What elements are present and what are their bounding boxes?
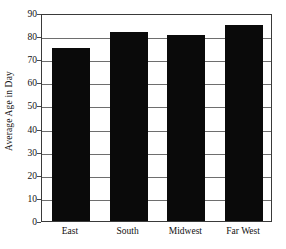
- y-axis-tick-mark: [37, 83, 41, 84]
- x-axis-tick-labels: EastSouthMidwestFar West: [41, 225, 272, 241]
- x-axis-tick-label: Far West: [214, 225, 272, 237]
- y-axis-tick-mark: [37, 37, 41, 38]
- y-axis-tick-label: 40: [17, 125, 37, 135]
- plot-area: [41, 14, 272, 222]
- bars-group: [42, 15, 271, 221]
- y-axis-title-text: Average Age in Day: [4, 71, 14, 151]
- y-axis-tick-label: 80: [17, 32, 37, 42]
- y-axis-tick-label: 20: [17, 171, 37, 181]
- y-axis-tick-mark: [37, 199, 41, 200]
- y-axis-tick-mark: [37, 222, 41, 223]
- bar-chart: Average Age in Day 0102030405060708090 E…: [0, 0, 286, 249]
- y-axis-tick-label: 10: [17, 194, 37, 204]
- x-axis-tick-label: Midwest: [157, 225, 215, 237]
- y-axis-tick-mark: [37, 60, 41, 61]
- x-axis-tick-label: South: [99, 225, 157, 237]
- y-axis-tick-label: 60: [17, 78, 37, 88]
- y-axis-tick-labels: 0102030405060708090: [17, 0, 37, 232]
- bar: [52, 48, 90, 221]
- y-axis-tick-label: 30: [17, 148, 37, 158]
- y-axis-tick-mark: [37, 14, 41, 15]
- y-axis-tick-mark: [37, 176, 41, 177]
- bar: [167, 35, 205, 221]
- y-axis-tick-mark: [37, 130, 41, 131]
- y-axis-title: Average Age in Day: [0, 0, 18, 222]
- y-axis-tick-label: 50: [17, 101, 37, 111]
- x-axis-tick-label: East: [41, 225, 99, 237]
- y-axis-tick-label: 0: [17, 217, 37, 227]
- y-axis-tick-mark: [37, 106, 41, 107]
- y-axis-tick-label: 70: [17, 55, 37, 65]
- bar: [225, 25, 263, 221]
- bar: [110, 32, 148, 222]
- y-axis-tick-mark: [37, 153, 41, 154]
- y-axis-tick-label: 90: [17, 9, 37, 19]
